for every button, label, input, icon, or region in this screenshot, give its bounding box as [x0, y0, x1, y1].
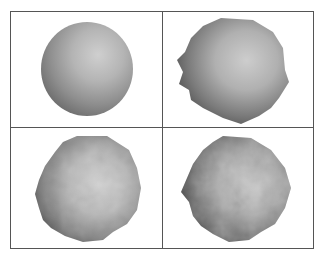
surface-texture [35, 136, 141, 242]
panel-sphere-smooth [11, 12, 162, 127]
surface-texture [181, 136, 291, 242]
panel-sphere-high-displacement [163, 128, 313, 248]
sphere-shape [41, 22, 133, 116]
sphere-smooth-image [11, 12, 162, 127]
blob-low-image [163, 12, 313, 127]
panel-sphere-low-displacement [163, 12, 313, 127]
blob-high-image [163, 128, 313, 248]
blob-medium-image [11, 128, 162, 248]
blob-shape [177, 18, 289, 124]
panel-sphere-medium-displacement [11, 128, 162, 248]
